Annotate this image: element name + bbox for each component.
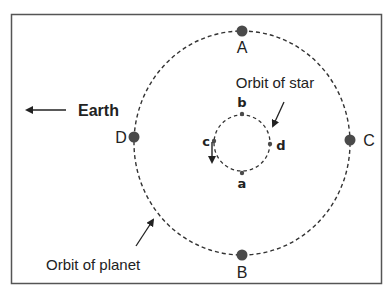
- planet-dot-b: [237, 250, 248, 261]
- star-dot-b: [240, 112, 244, 116]
- star-dot-d: [268, 142, 272, 146]
- planet-label-a: A: [237, 39, 248, 56]
- planet-label-b: B: [237, 264, 248, 281]
- planet-orbit-label: Orbit of planet: [46, 256, 141, 273]
- planet-label-c: C: [363, 132, 375, 149]
- earth-label: Earth: [78, 102, 119, 119]
- planet-dot-c: [345, 135, 356, 146]
- star-orbit-label: Orbit of star: [236, 74, 314, 91]
- star-dot-a: [240, 171, 244, 175]
- orbit-diagram: A B C D a b c d Orbit of star Earth Orbi…: [0, 0, 389, 293]
- star-label-a: a: [238, 176, 247, 191]
- diagram-frame: [12, 15, 382, 284]
- star-label-d: d: [276, 138, 285, 153]
- star-label-b: b: [237, 95, 246, 110]
- star-label-c: c: [202, 134, 210, 149]
- planet-dot-a: [237, 26, 248, 37]
- planet-label-d: D: [115, 129, 127, 146]
- planet-dot-d: [129, 132, 140, 143]
